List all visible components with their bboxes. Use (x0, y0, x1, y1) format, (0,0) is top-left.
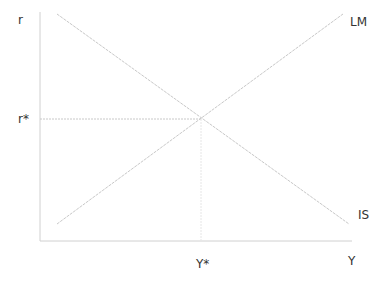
y-star-label: Y* (196, 258, 209, 270)
lm-label: LM (350, 16, 367, 28)
x-axis-label: Y (348, 255, 355, 267)
islm-chart (0, 0, 387, 287)
is-label: IS (358, 209, 369, 221)
y-axis-label: r (18, 14, 23, 26)
r-star-label: r* (18, 113, 29, 125)
